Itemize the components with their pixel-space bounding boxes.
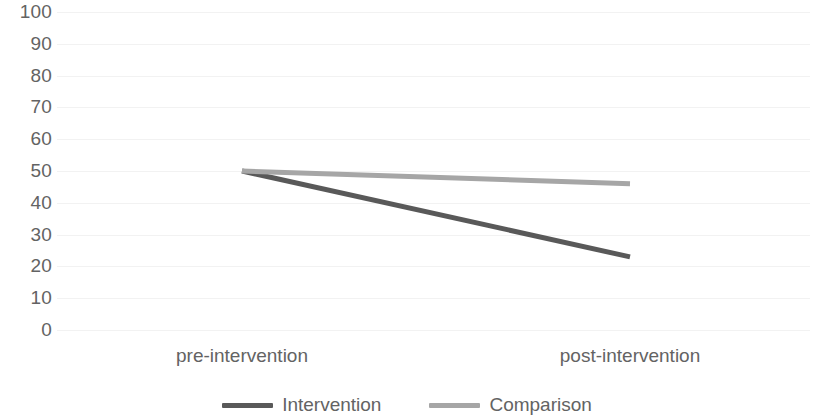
legend-label: Intervention [282, 394, 381, 416]
legend-swatch-icon [429, 403, 480, 408]
y-tick-label: 0 [0, 320, 52, 339]
series-layer [57, 0, 810, 340]
y-tick-label: 20 [0, 256, 52, 275]
line-chart: 1009080706050403020100 pre-interventionp… [0, 0, 814, 418]
series-lines [242, 171, 630, 257]
x-tick-label: pre-intervention [122, 344, 362, 368]
x-axis: pre-interventionpost-intervention [0, 344, 814, 376]
y-tick-label: 90 [0, 34, 52, 53]
legend-item-intervention[interactable]: Intervention [222, 394, 381, 416]
y-tick-label: 100 [0, 2, 52, 21]
y-tick-label: 10 [0, 288, 52, 307]
y-tick-label: 80 [0, 66, 52, 85]
legend-swatch-icon [222, 403, 273, 408]
plot-area [57, 0, 810, 340]
chart-legend: InterventionComparison [0, 392, 814, 418]
x-tick-label: post-intervention [510, 344, 750, 368]
y-tick-label: 50 [0, 161, 52, 180]
legend-label: Comparison [489, 394, 591, 416]
legend-item-comparison[interactable]: Comparison [429, 394, 591, 416]
y-tick-label: 70 [0, 97, 52, 116]
y-axis: 1009080706050403020100 [0, 0, 52, 340]
y-tick-label: 30 [0, 225, 52, 244]
y-tick-label: 40 [0, 193, 52, 212]
y-tick-label: 60 [0, 129, 52, 148]
